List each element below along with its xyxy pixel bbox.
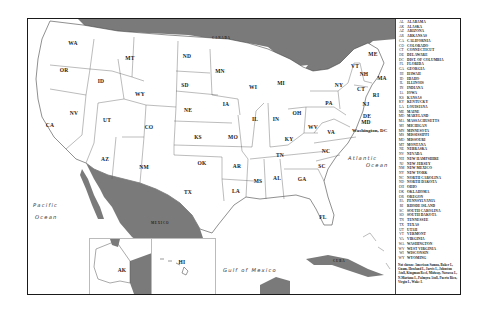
state-label-ca: CA xyxy=(46,122,54,128)
state-label-vt: VT xyxy=(351,63,359,69)
state-label-ok: OK xyxy=(198,160,207,166)
state-label-tx: TX xyxy=(184,189,192,195)
state-label-ia: IA xyxy=(223,101,230,107)
state-label-wi: WI xyxy=(249,84,257,90)
mexico-label: MEXICO xyxy=(151,221,169,225)
alaska-hawaii-inset: AK HI xyxy=(89,238,216,295)
legend-row: WYWYOMING xyxy=(396,256,460,261)
state-label-wv: WV xyxy=(308,124,318,130)
state-label-ri: RI xyxy=(373,92,380,98)
state-label-il: IL xyxy=(252,116,258,122)
state-label-la: LA xyxy=(232,188,240,194)
legend-state-name: WYOMING xyxy=(407,256,460,261)
state-label-nj: NJ xyxy=(362,101,369,107)
state-label-ma: MA xyxy=(377,75,387,81)
inset-divider xyxy=(151,239,152,294)
state-label-fl: FL xyxy=(319,214,326,220)
pacific-ocean-label-line1: Pacific xyxy=(33,202,58,208)
legend-abbr: WY xyxy=(396,256,407,261)
state-label-ct: CT xyxy=(357,86,365,92)
inset-graphic xyxy=(90,239,215,294)
state-label-ut: UT xyxy=(103,117,111,123)
state-label-id: ID xyxy=(98,78,105,84)
atlantic-ocean-label-line1: Atlantic xyxy=(348,155,377,161)
cuba-label: CUBA xyxy=(333,259,345,263)
state-label-nh: NH xyxy=(360,71,369,77)
state-legend: ALALABAMAAKALASKAAZARIZONAARARKANSASCACA… xyxy=(395,19,460,294)
state-label-ny: NY xyxy=(335,82,343,88)
map-frame: CANADA MEXICO CUBA Pacific Ocean Atlanti… xyxy=(27,18,461,295)
state-label-nv: NV xyxy=(70,110,78,116)
state-label-ga: GA xyxy=(298,176,307,182)
gulf-of-mexico-label: Gulf of Mexico xyxy=(223,267,277,273)
state-label-az: AZ xyxy=(101,156,109,162)
atlantic-ocean-label-line2: Ocean xyxy=(366,162,389,168)
state-label-hi: HI xyxy=(179,259,186,265)
legend-list: ALALABAMAAKALASKAAZARIZONAARARKANSASCACA… xyxy=(396,20,460,261)
state-label-nd: ND xyxy=(183,53,191,59)
state-label-wa: WA xyxy=(68,40,77,46)
state-label-in: IN xyxy=(273,116,280,122)
state-label-ak: AK xyxy=(118,267,127,273)
state-label-tn: TN xyxy=(276,152,284,158)
state-label-mt: MT xyxy=(125,55,134,61)
state-label-pa: PA xyxy=(325,100,332,106)
state-label-nm: NM xyxy=(139,164,149,170)
state-label-mi: MI xyxy=(277,80,285,86)
washington-dc-label: Washington, DC xyxy=(352,128,387,133)
state-label-me: ME xyxy=(368,51,377,57)
state-label-co: CO xyxy=(145,124,154,130)
state-label-va: VA xyxy=(327,129,335,135)
not-shown-note: Not shown: American Samoa, Baker I., Gua… xyxy=(396,261,460,285)
canada-in-inset xyxy=(130,253,152,294)
state-label-oh: OH xyxy=(293,110,302,116)
state-label-ks: KS xyxy=(194,134,202,140)
state-label-or: OR xyxy=(60,67,69,73)
state-label-ms: MS xyxy=(254,178,263,184)
pacific-ocean-label-line2: Ocean xyxy=(35,214,58,220)
state-label-sc: SC xyxy=(318,163,325,169)
state-label-nc: NC xyxy=(322,148,330,154)
state-label-al: AL xyxy=(273,175,281,181)
canada-label: CANADA xyxy=(212,36,231,40)
state-label-ar: AR xyxy=(233,163,241,169)
yucatan-landmass xyxy=(260,277,290,294)
state-label-ne: NE xyxy=(184,107,192,113)
state-label-wy: WY xyxy=(135,91,145,97)
state-label-mn: MN xyxy=(215,68,225,74)
state-label-md: MD xyxy=(361,119,371,125)
caribbean-islands xyxy=(363,233,390,269)
state-label-sd: SD xyxy=(181,82,188,88)
alaska-outline xyxy=(94,241,130,283)
state-label-ky: KY xyxy=(285,136,294,142)
state-label-mo: MO xyxy=(228,134,238,140)
